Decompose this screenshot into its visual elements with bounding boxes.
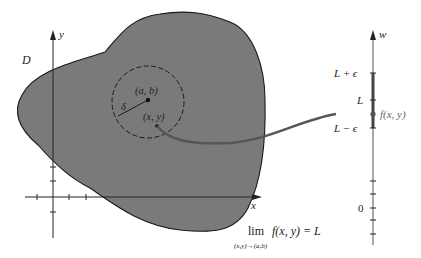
- w-axis-label: w: [379, 28, 387, 40]
- w-label-zero: 0: [358, 202, 364, 214]
- center-point-label: (a, b): [135, 85, 158, 97]
- limit-diagram: D y x (a, b) δ (x, y) w L + ϵ L L − ϵ 0 …: [0, 0, 421, 258]
- x-axis-label: x: [250, 199, 256, 211]
- image-label: f(x, y): [380, 108, 406, 121]
- w-label-upper: L + ϵ: [333, 67, 358, 79]
- region-label: D: [21, 53, 31, 67]
- region-d: [17, 12, 265, 231]
- near-point-label: (x, y): [143, 111, 165, 123]
- w-label-l: L: [356, 94, 363, 106]
- center-point: [146, 98, 150, 102]
- y-axis-arrow: [50, 30, 56, 40]
- y-axis-label: y: [58, 28, 64, 40]
- limit-operator: lim: [248, 224, 265, 238]
- limit-body: f(x, y) = L: [272, 224, 321, 238]
- w-label-lower: L − ϵ: [333, 122, 358, 134]
- limit-subscript: (x,y)→(a,b): [234, 242, 268, 250]
- image-point: [370, 111, 375, 116]
- w-axis-arrow: [370, 30, 376, 40]
